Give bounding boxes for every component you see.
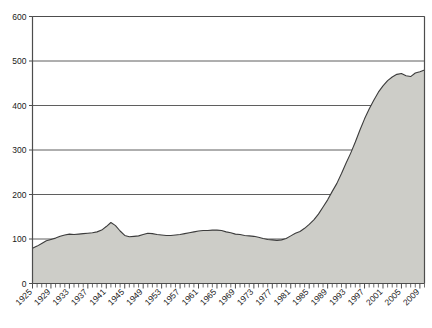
chart-container: 6005004003002001000 19251929193319371941… xyxy=(0,0,432,328)
y-axis-label-500: 500 xyxy=(12,56,26,66)
area-chart: 6005004003002001000 19251929193319371941… xyxy=(0,0,432,328)
y-axis-label-200: 200 xyxy=(12,190,26,200)
y-axis-label-100: 100 xyxy=(12,234,26,244)
y-axis-label-300: 300 xyxy=(12,145,26,155)
y-axis-label-600: 600 xyxy=(12,12,26,22)
y-axis-label-400: 400 xyxy=(12,101,26,111)
